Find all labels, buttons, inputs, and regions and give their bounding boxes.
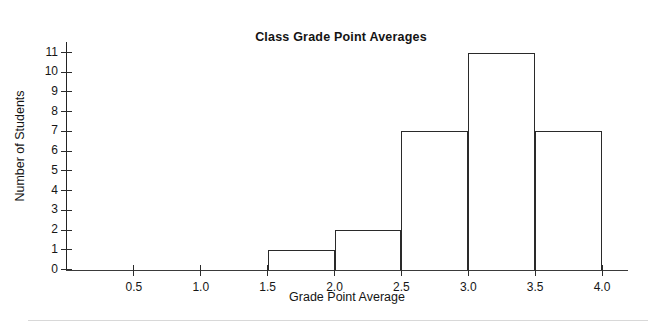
y-axis-tick [61,151,72,152]
y-axis-tick [61,170,72,171]
y-axis-line [66,42,67,271]
y-axis-tick [61,269,72,270]
y-axis-tick-label: 0 [20,262,58,276]
histogram-bar [335,230,402,269]
x-axis-line [66,270,628,271]
y-axis-title: Number of Students [13,66,27,226]
x-axis-tick [200,265,201,276]
y-axis-tick [61,91,72,92]
y-axis-tick [61,111,72,112]
page-divider-rule [28,320,648,321]
histogram-bar [535,131,602,269]
histogram-bar [268,250,335,270]
y-axis-tick [61,190,72,191]
histogram-bar [468,53,535,270]
y-axis-tick-label: 11 [20,45,58,59]
x-axis-title: Grade Point Average [66,290,628,304]
x-axis-tick [133,265,134,276]
y-axis-tick [61,210,72,211]
y-axis-tick [61,72,72,73]
y-axis-tick-label: 1 [20,242,58,256]
histogram-bar [401,131,468,269]
y-axis-tick [61,131,72,132]
plot-area: 01234567891011 0.51.01.52.02.53.03.54.0 [66,42,628,270]
histogram-figure: Class Grade Point Averages 0123456789101… [0,0,654,330]
y-axis-tick [61,52,72,53]
y-axis-tick [61,249,72,250]
y-axis-tick [61,230,72,231]
